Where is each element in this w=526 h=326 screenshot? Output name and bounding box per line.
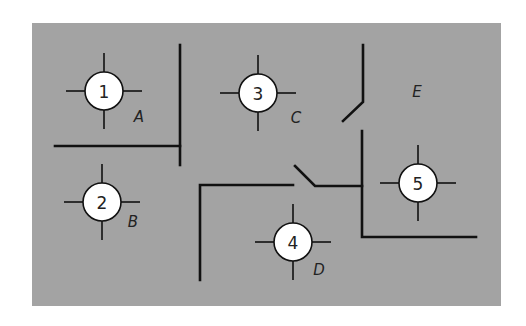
room-label-b: B — [128, 213, 138, 231]
floor-plan-diagram: 12345 ABCDE — [0, 0, 526, 326]
room-label-d: D — [313, 261, 325, 279]
node-number: 3 — [253, 84, 264, 104]
node-number: 4 — [288, 233, 299, 253]
node-number: 5 — [413, 174, 424, 194]
room-label-e: E — [412, 83, 422, 101]
room-label-c: C — [291, 109, 302, 127]
node-number: 1 — [99, 82, 110, 102]
room-label-a: A — [133, 108, 144, 126]
node-number: 2 — [97, 193, 108, 213]
